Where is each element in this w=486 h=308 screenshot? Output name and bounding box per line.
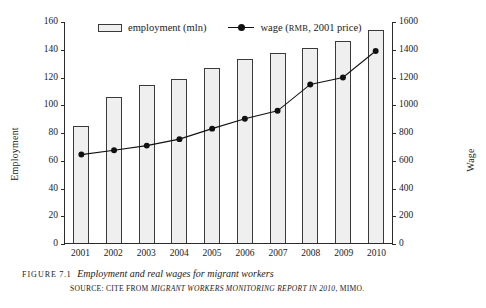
x-axis-labels: 2001200220032004200520062007200820092010 (64, 248, 393, 262)
figure-number: 7.1 (59, 269, 71, 279)
right-tick-label: 400 (399, 184, 413, 194)
figure-label: FIGURE (22, 270, 57, 279)
source-report-name: MIGRANT WORKERS MONITORING REPORT IN 201… (151, 284, 336, 293)
x-tick-label-2002: 2002 (97, 248, 130, 262)
right-tick-label: 600 (399, 156, 413, 166)
left-tick-label: 20 (49, 212, 59, 222)
left-tick-label: 60 (49, 156, 59, 166)
right-tick-mark (392, 133, 396, 134)
employment-axis-title: Employment (9, 127, 20, 181)
wage-line-path (81, 51, 375, 155)
right-tick-label: 800 (399, 128, 413, 138)
wage-line-series (65, 22, 392, 243)
wage-point-2008 (307, 81, 313, 87)
right-tick-mark (392, 22, 396, 23)
x-tick-label-2003: 2003 (130, 248, 163, 262)
left-tick-label: 100 (44, 101, 58, 111)
x-tick-label-2005: 2005 (196, 248, 229, 262)
right-tick-mark (392, 105, 396, 106)
wage-point-2009 (340, 75, 346, 81)
wage-point-2003 (144, 143, 150, 149)
x-tick-label-2007: 2007 (261, 248, 294, 262)
x-tick-label-2004: 2004 (163, 248, 196, 262)
left-tick-label: 160 (44, 17, 58, 27)
wage-point-2002 (111, 147, 117, 153)
right-tick-mark (392, 189, 396, 190)
x-tick-label-2010: 2010 (360, 248, 393, 262)
right-tick-label: 1200 (399, 73, 418, 83)
wage-point-2007 (275, 108, 281, 114)
wage-point-2005 (209, 126, 215, 132)
right-tick-label: 1600 (399, 17, 418, 27)
left-tick-label: 140 (44, 45, 58, 55)
source-prefix: SOURCE: CITE FROM (70, 284, 149, 293)
figure-caption: FIGURE 7.1Employment and real wages for … (22, 268, 468, 295)
right-tick-mark (392, 216, 396, 217)
right-tick-label: 1000 (399, 101, 418, 111)
x-tick-label-2009: 2009 (327, 248, 360, 262)
right-tick-mark (392, 244, 396, 245)
wage-point-2010 (373, 48, 379, 54)
right-tick-mark (392, 50, 396, 51)
wage-axis-title: Wage (465, 148, 476, 171)
x-tick-label-2001: 2001 (64, 248, 97, 262)
left-tick-label: 80 (49, 128, 59, 138)
caption-line-title: FIGURE 7.1Employment and real wages for … (22, 268, 468, 281)
wage-point-2004 (176, 136, 182, 142)
right-tick-label: 1400 (399, 45, 418, 55)
wage-point-2001 (78, 152, 84, 158)
caption-line-source: SOURCE: CITE FROM MIGRANT WORKERS MONITO… (70, 283, 468, 295)
left-tick-label: 40 (49, 184, 59, 194)
left-tick-label: 0 (53, 239, 58, 249)
left-tick-label: 120 (44, 73, 58, 83)
source-suffix: , MIMO. (335, 284, 364, 293)
x-tick-label-2008: 2008 (294, 248, 327, 262)
plot-area: 020406080100120140160 020040060080010001… (64, 22, 393, 244)
right-tick-mark (392, 161, 396, 162)
left-tick-mark (61, 244, 65, 245)
x-tick-label-2006: 2006 (229, 248, 262, 262)
figure-title: Employment and real wages for migrant wo… (77, 268, 273, 279)
right-tick-label: 0 (399, 239, 404, 249)
wage-point-2006 (242, 116, 248, 122)
figure-container: employment (mln) wage (RMB, 2001 price) … (0, 0, 486, 308)
right-tick-mark (392, 78, 396, 79)
right-tick-label: 200 (399, 212, 413, 222)
